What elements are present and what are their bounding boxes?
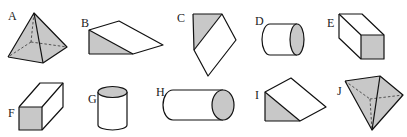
- shape-b-wedge: B: [81, 16, 163, 54]
- label-a: A: [8, 9, 17, 23]
- label-b: B: [81, 16, 89, 30]
- shape-c-prism: C: [177, 11, 236, 76]
- label-d: D: [255, 14, 264, 28]
- label-c: C: [177, 11, 185, 25]
- label-g: G: [88, 92, 97, 106]
- label-e: E: [327, 16, 334, 30]
- shape-j-pyramid: J: [337, 76, 403, 130]
- shapes-figure: A B C D E: [0, 0, 407, 137]
- shape-e-box: E: [327, 14, 384, 59]
- label-h: H: [156, 85, 165, 99]
- shape-g-cylinder: G: [88, 87, 127, 130]
- label-f: F: [8, 106, 15, 120]
- shape-f-box: F: [8, 83, 63, 130]
- label-i: I: [255, 88, 259, 102]
- shape-h-cylinder: H: [156, 85, 234, 120]
- shape-a-square-pyramid: A: [8, 9, 67, 63]
- shape-d-cylinder: D: [255, 14, 304, 55]
- shape-i-wedge: I: [255, 78, 326, 121]
- label-j: J: [337, 84, 342, 98]
